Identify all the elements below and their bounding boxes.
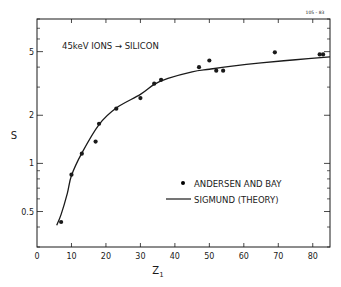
- legend-label-points: ANDERSEN AND BAY: [194, 179, 282, 189]
- chart-title: 45keV IONS → SILICON: [62, 41, 159, 51]
- y-tick-label: 0.5: [21, 208, 34, 217]
- y-tick-label: 1: [29, 159, 34, 168]
- figure-id: 105 - 83: [306, 10, 325, 15]
- data-point: [80, 152, 84, 156]
- axis-tick-labels: 010203040506070800.5125: [21, 48, 318, 261]
- x-axis-label: Z1: [152, 265, 163, 279]
- x-tick-label: 80: [308, 252, 318, 261]
- chart: 010203040506070800.5125 105 - 83 45keV I…: [0, 0, 341, 287]
- legend-label-line: SIGMUND (THEORY): [194, 195, 278, 205]
- data-point: [59, 220, 63, 224]
- data-point: [94, 139, 98, 143]
- data-point: [214, 69, 218, 73]
- x-tick-label: 50: [204, 252, 214, 261]
- data-point: [114, 107, 118, 111]
- y-axis-label: S: [11, 130, 17, 141]
- x-tick-label: 10: [66, 252, 76, 261]
- plot-frame: [37, 19, 330, 247]
- x-tick-label: 40: [170, 252, 180, 261]
- legend-dot-icon: [181, 181, 185, 185]
- data-point: [159, 78, 163, 82]
- plot-border: [37, 19, 330, 247]
- data-point: [221, 69, 225, 73]
- data-points: [59, 50, 325, 224]
- axis-ticks: [37, 19, 330, 247]
- data-point: [69, 173, 73, 177]
- legend: ANDERSEN AND BAY SIGMUND (THEORY): [166, 179, 282, 205]
- data-point: [138, 96, 142, 100]
- x-tick-label: 30: [135, 252, 145, 261]
- data-point: [207, 58, 211, 62]
- x-tick-label: 0: [34, 252, 39, 261]
- x-tick-label: 70: [273, 252, 283, 261]
- data-point: [97, 122, 101, 126]
- data-point: [273, 50, 277, 54]
- x-tick-label: 60: [239, 252, 249, 261]
- y-tick-label: 2: [29, 111, 34, 120]
- data-point: [152, 82, 156, 86]
- data-point: [197, 65, 201, 69]
- data-point: [321, 52, 325, 56]
- x-tick-label: 20: [101, 252, 111, 261]
- y-tick-label: 5: [29, 48, 34, 57]
